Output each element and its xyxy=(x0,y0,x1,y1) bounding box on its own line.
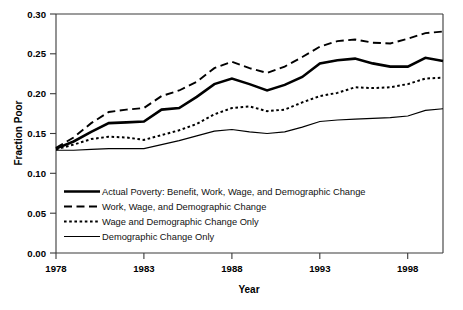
y-tick-label: 0.05 xyxy=(27,208,46,219)
y-tick-label: 0.30 xyxy=(27,9,46,20)
legend-label-wage-demographic: Wage and Demographic Change Only xyxy=(102,217,259,227)
poverty-line-chart: 0.30 0.25 0.20 0.15 0.10 0.05 0.00 1978 … xyxy=(0,0,463,310)
y-tick-label: 0.00 xyxy=(27,248,46,259)
y-tick-label: 0.10 xyxy=(27,168,46,179)
x-tick-label: 1978 xyxy=(45,263,67,274)
x-tick-label: 1998 xyxy=(397,263,419,274)
y-tick-label: 0.15 xyxy=(27,128,46,139)
y-tick-label: 0.25 xyxy=(27,48,46,59)
chart-figure: 0.30 0.25 0.20 0.15 0.10 0.05 0.00 1978 … xyxy=(0,0,463,310)
x-axis-title: Year xyxy=(238,284,259,295)
x-tick-label: 1993 xyxy=(309,263,330,274)
legend-label-work-wage-demographic: Work, Wage, and Demographic Change xyxy=(102,202,266,212)
legend-label-demographic-only: Demographic Change Only xyxy=(102,232,214,242)
y-tick-label: 0.20 xyxy=(27,88,46,99)
x-tick-label: 1988 xyxy=(221,263,243,274)
x-tick-label: 1983 xyxy=(133,263,154,274)
y-axis-title: Fraction Poor xyxy=(13,100,24,165)
legend-label-actual-poverty: Actual Poverty: Benefit, Work, Wage, and… xyxy=(102,187,366,197)
